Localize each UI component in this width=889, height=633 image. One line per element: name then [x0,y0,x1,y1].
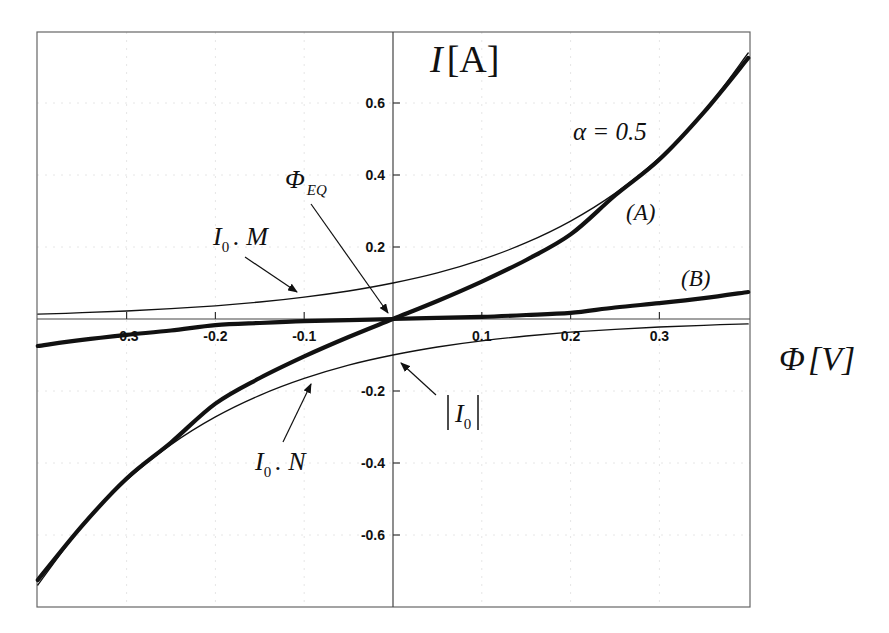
y-tick-label: 0.2 [366,239,386,255]
y-tick-label: 0.4 [366,167,386,183]
curve-a-label: (A) [626,200,655,225]
x-axis-unit: [V] [808,340,855,377]
alpha-label: α = 0.5 [573,118,647,145]
abs-i0-label: I0 [448,395,478,432]
x-tick-label: 0.3 [650,328,670,344]
y-tick-label: -0.6 [361,527,385,543]
iv-chart: -0.3-0.2-0.10.10.20.3 0.60.40.2-0.2-0.4-… [0,0,889,633]
y-tick-label: -0.2 [361,383,385,399]
i0m-arrow-icon [245,257,297,292]
x-axis-label: Φ [779,340,805,377]
svg-text:I0: I0 [454,399,471,432]
i0n-label: I0. N [254,447,307,480]
i0m-label: I0. M [212,222,269,255]
x-tick-label: -0.2 [203,328,227,344]
phi-eq-label: ΦEQ [285,165,327,198]
curve-b-label: (B) [681,266,710,291]
phi-eq-arrow-icon [311,204,388,313]
y-tick-label: 0.6 [366,95,386,111]
abs-i0-arrow-icon [401,363,436,395]
y-tick-label: -0.4 [361,455,385,471]
i0n-arrow-icon [283,384,311,442]
y-axis-label: I[A] [429,38,499,80]
x-tick-label: 0.2 [561,328,581,344]
x-tick-label: -0.1 [292,328,316,344]
